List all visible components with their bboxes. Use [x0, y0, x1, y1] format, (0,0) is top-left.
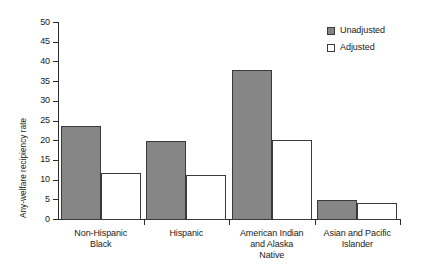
y-axis-tick-label: 25 — [0, 116, 50, 125]
x-axis-tick — [315, 220, 316, 225]
legend-label-unadjusted: Unadjusted — [340, 26, 385, 35]
bar-unadjusted-3 — [317, 200, 357, 220]
y-axis-tick-label: 40 — [0, 57, 50, 66]
y-axis-tick — [53, 121, 58, 122]
y-axis-tick-label-text: 0 — [4, 215, 50, 224]
bar-adjusted-1 — [186, 175, 226, 220]
x-axis-category-label-line: Islander — [307, 239, 407, 250]
x-axis-tick — [229, 220, 230, 225]
y-axis-tick — [53, 101, 58, 102]
y-axis-tick — [53, 81, 58, 82]
y-axis-tick — [53, 219, 58, 220]
x-axis-category-label-line: Asian and Pacific — [307, 228, 407, 239]
y-axis-tick — [53, 140, 58, 141]
x-axis-tick — [144, 220, 145, 225]
chart-legend: Unadjusted Adjusted — [327, 24, 385, 58]
y-axis-tick-label-text: 35 — [4, 77, 50, 86]
legend-swatch-adjusted-icon — [327, 44, 335, 52]
y-axis-tick — [53, 199, 58, 200]
legend-swatch-unadjusted-icon — [327, 27, 335, 35]
y-axis-line — [58, 22, 59, 220]
y-axis-tick-label: 35 — [0, 77, 50, 86]
y-axis-tick-label: 5 — [0, 195, 50, 204]
x-axis-tick — [400, 220, 401, 225]
y-axis-tick-label-text: 50 — [4, 18, 50, 27]
y-axis-tick-label: 20 — [0, 136, 50, 145]
y-axis-tick-label: 10 — [0, 175, 50, 184]
y-axis-tick-label-text: 20 — [4, 136, 50, 145]
y-axis-tick-label: 15 — [0, 155, 50, 164]
y-axis-tick-label-text: 45 — [4, 37, 50, 46]
x-axis-category-label: Asian and PacificIslander — [307, 228, 407, 250]
y-axis-tick-label: 30 — [0, 96, 50, 105]
y-axis-tick-label-text: 15 — [4, 155, 50, 164]
y-axis-tick-label-text: 10 — [4, 175, 50, 184]
y-axis-tick-label-text: 30 — [4, 96, 50, 105]
bar-adjusted-3 — [357, 203, 397, 220]
y-axis-tick-label-text: 40 — [4, 57, 50, 66]
bar-adjusted-2 — [272, 140, 312, 220]
y-axis-tick-label: 0 — [0, 215, 50, 224]
y-axis-tick — [53, 160, 58, 161]
x-axis-category-label-line: Native — [222, 250, 322, 261]
bar-unadjusted-0 — [61, 126, 101, 220]
y-axis-tick-label-text: 5 — [4, 195, 50, 204]
y-axis-tick-label: 45 — [0, 37, 50, 46]
y-axis-tick — [53, 42, 58, 43]
legend-label-adjusted: Adjusted — [340, 43, 375, 52]
y-axis-tick — [53, 22, 58, 23]
y-axis-tick-label-text: 25 — [4, 116, 50, 125]
y-axis-tick — [53, 180, 58, 181]
x-axis-category-label-line: Black — [51, 239, 151, 250]
bar-unadjusted-2 — [232, 70, 272, 220]
bar-unadjusted-1 — [146, 141, 186, 220]
y-axis-tick — [53, 61, 58, 62]
y-axis-tick-label: 50 — [0, 18, 50, 27]
bar-chart: Any-welfare recipiency rate 051015202530… — [0, 0, 424, 270]
legend-item-adjusted: Adjusted — [327, 41, 385, 54]
bar-adjusted-0 — [101, 173, 141, 220]
legend-item-unadjusted: Unadjusted — [327, 24, 385, 37]
